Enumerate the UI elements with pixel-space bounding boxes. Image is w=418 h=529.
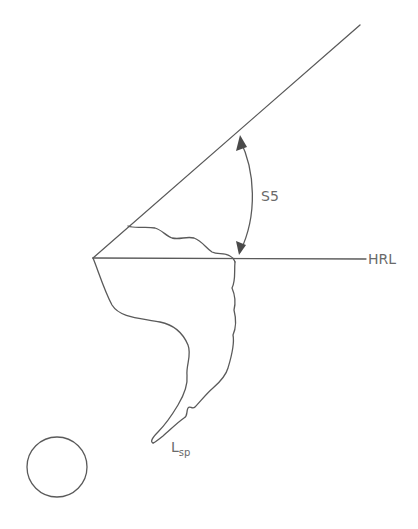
tip-label-sub: sp — [179, 447, 191, 458]
left-outline — [93, 258, 189, 443]
horizontal-reference-line — [93, 258, 366, 259]
diagonal-line — [93, 25, 360, 258]
upper-outline — [128, 226, 235, 262]
right-outline — [153, 262, 236, 443]
reference-line-label: HRL — [368, 251, 396, 267]
tip-label: Lsp — [171, 439, 190, 458]
circle-marker — [27, 437, 87, 497]
diagram-canvas: S5 HRL Lsp — [0, 0, 418, 529]
angle-label: S5 — [261, 188, 279, 204]
arrowhead-top-icon — [236, 135, 247, 151]
tip-label-main: L — [171, 439, 179, 455]
angle-arc — [240, 140, 252, 252]
